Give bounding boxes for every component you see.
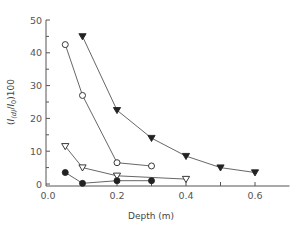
x-tick-label: 0.2 xyxy=(109,190,124,201)
y-tick-label: 10 xyxy=(30,146,42,157)
data-point-marker xyxy=(62,42,68,48)
y-tick-label: 20 xyxy=(30,113,42,124)
y-tick-label: 30 xyxy=(30,80,42,91)
series-group xyxy=(62,34,259,187)
data-point-marker xyxy=(80,180,86,186)
series-open-down-triangle xyxy=(62,144,190,183)
data-point-marker xyxy=(62,170,68,176)
depth-intensity-chart: 01020304050 0.00.20.40.6 Depth (m) (I(d)… xyxy=(0,0,303,234)
data-point-marker xyxy=(114,160,120,166)
data-point-marker xyxy=(149,178,155,184)
series-line xyxy=(65,45,151,166)
x-tick-label: 0.0 xyxy=(40,190,55,201)
data-point-marker xyxy=(80,92,86,98)
data-point-marker xyxy=(114,178,120,184)
x-axis-title: Depth (m) xyxy=(128,211,174,221)
data-point-marker xyxy=(148,135,155,141)
series-filled-down-triangle xyxy=(79,34,259,176)
series-line xyxy=(65,146,186,179)
x-tick-label: 0.6 xyxy=(247,190,262,201)
y-tick-label: 50 xyxy=(30,15,42,26)
data-point-marker xyxy=(79,34,86,40)
series-line xyxy=(83,36,256,172)
y-axis-title: (I(d)/I0)100 xyxy=(6,79,18,125)
series-filled-circle xyxy=(62,170,154,187)
y-tick-label: 40 xyxy=(30,47,42,58)
data-point-marker xyxy=(149,163,155,169)
series-open-circle xyxy=(62,42,154,169)
x-tick-label: 0.4 xyxy=(178,190,193,201)
y-tick-label: 0 xyxy=(36,179,42,190)
x-axis: 0.00.20.40.6 xyxy=(40,182,289,201)
data-point-marker xyxy=(182,176,189,182)
y-axis: 01020304050 xyxy=(30,15,50,190)
data-point-marker xyxy=(251,170,258,176)
